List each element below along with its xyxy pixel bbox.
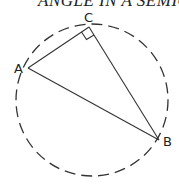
segment-ab	[28, 68, 159, 140]
label-c: C	[84, 10, 93, 25]
segment-cb	[89, 27, 159, 140]
label-b: B	[163, 134, 172, 149]
label-a: A	[14, 61, 23, 76]
circle	[16, 24, 168, 176]
right-angle-marker	[82, 32, 95, 40]
diagram-canvas: C A B	[0, 0, 179, 186]
